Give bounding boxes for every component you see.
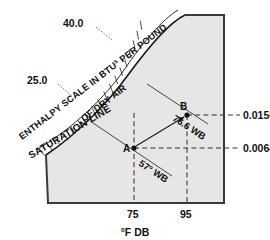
humidity-tick-label-low: 0.0064 bbox=[243, 142, 270, 154]
humidity-tick-label-high: 0.0156 bbox=[243, 109, 270, 121]
chart-canvas: 25.0 40.0 ENTHALPY SCALE IN BTUs PER POU… bbox=[0, 0, 270, 240]
x-tick-label-95: 95 bbox=[180, 208, 192, 220]
state-point-b-label: B bbox=[180, 101, 187, 112]
x-tick-label-75: 75 bbox=[127, 208, 139, 220]
enthalpy-label-low: 25.0 bbox=[27, 74, 48, 86]
psychrometric-chart-figure: 25.0 40.0 ENTHALPY SCALE IN BTUs PER POU… bbox=[0, 0, 270, 240]
state-point-a-label: A bbox=[123, 143, 130, 154]
leader-line-enthalpy-high bbox=[96, 27, 112, 40]
enthalpy-label-high: 40.0 bbox=[63, 17, 84, 29]
x-axis-title: °F DB bbox=[121, 226, 150, 238]
state-point-a-marker bbox=[131, 145, 136, 150]
